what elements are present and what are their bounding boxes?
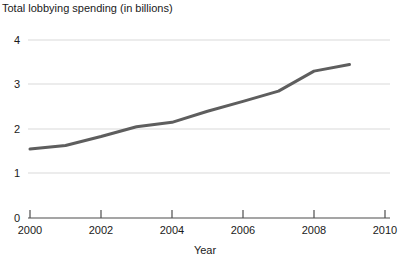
y-tick-label-3: 3	[14, 78, 20, 90]
y-tick-label-1: 1	[14, 167, 20, 179]
chart-plot-area: 4 3 2 1 0 2000 2002 2004 2006 2008 2010 …	[0, 0, 401, 261]
x-tick-label-2002: 2002	[89, 224, 113, 236]
lobbying-spending-chart: Total lobbying spending (in billions) 4 …	[0, 0, 401, 261]
x-tick-label-2000: 2000	[18, 224, 42, 236]
x-axis-title: Year	[194, 244, 217, 256]
x-axis-ticks	[30, 210, 385, 218]
series-line-total-lobbying-spending	[30, 64, 350, 149]
x-tick-label-2008: 2008	[302, 224, 326, 236]
x-tick-label-2006: 2006	[231, 224, 255, 236]
x-tick-label-2004: 2004	[160, 224, 184, 236]
x-tick-label-2010: 2010	[373, 224, 397, 236]
gridlines	[28, 40, 390, 173]
y-tick-label-0: 0	[14, 212, 20, 224]
y-tick-label-2: 2	[14, 123, 20, 135]
y-tick-label-4: 4	[14, 34, 20, 46]
